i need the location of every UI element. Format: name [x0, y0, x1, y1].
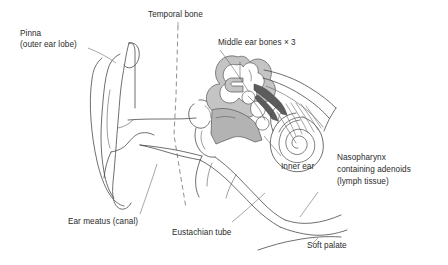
- label-temporal-bone: Temporal bone: [148, 10, 203, 19]
- label-ear-meatus: Ear meatus (canal): [68, 217, 138, 226]
- ear-anatomy-diagram: Pinna (outer ear lobe) Temporal bone Mid…: [0, 0, 448, 265]
- ear-diagram-canvas: Pinna (outer ear lobe) Temporal bone Mid…: [0, 0, 448, 265]
- label-nasopharynx-line3: (lymph tissue): [337, 177, 389, 186]
- label-soft-palate: Soft palate: [307, 241, 347, 250]
- label-nasopharynx-line2: containing adenoids: [337, 165, 411, 174]
- label-pinna-line1: Pinna: [20, 29, 42, 38]
- label-middle-ear-bones: Middle ear bones × 3: [218, 38, 296, 47]
- label-inner-ear: Inner ear: [281, 162, 314, 171]
- label-eustachian-tube: Eustachian tube: [172, 228, 232, 237]
- label-nasopharynx-line1: Nasopharynx: [337, 153, 386, 162]
- label-pinna-line2: (outer ear lobe): [20, 40, 77, 49]
